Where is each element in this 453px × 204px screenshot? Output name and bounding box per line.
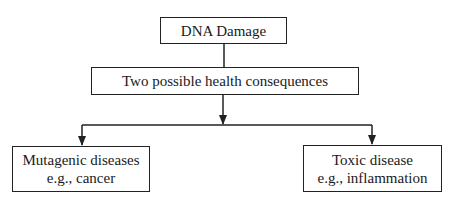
node-label: DNA Damage xyxy=(181,22,266,40)
node-dna-damage: DNA Damage xyxy=(160,17,287,44)
node-label: Two possible health consequences xyxy=(122,72,328,90)
node-label: Toxic disease xyxy=(332,151,413,169)
node-example: e.g., inflammation xyxy=(318,169,428,187)
node-mutagenic-diseases: Mutagenic diseases e.g., cancer xyxy=(12,146,150,192)
node-toxic-disease: Toxic disease e.g., inflammation xyxy=(303,145,442,192)
node-example: e.g., cancer xyxy=(47,169,115,187)
node-label: Mutagenic diseases xyxy=(22,151,139,169)
node-health-consequences: Two possible health consequences xyxy=(91,67,359,95)
